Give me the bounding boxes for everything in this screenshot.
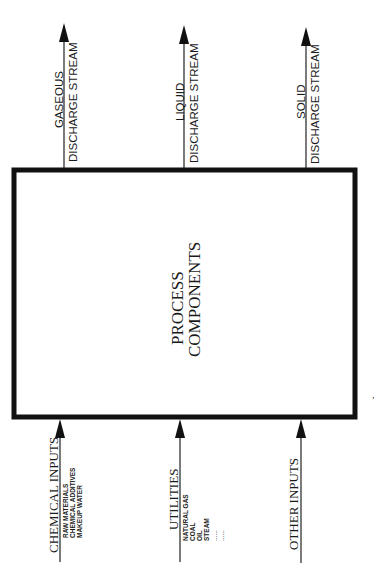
arrowhead-up-icon	[179, 25, 189, 44]
chemical-item: RAW MATERIALS	[62, 483, 69, 538]
output-arrow-gaseous: GASEOUS DISCHARGE STREAM	[53, 23, 79, 168]
process-flow-diagram: GASEOUS DISCHARGE STREAM LIQUID DISCHARG…	[0, 0, 377, 569]
utilities-item: NATURAL GAS	[182, 494, 189, 541]
input-arrow-chemical: CHEMICAL INPUTS RAW MATERIALS CHEMICAL A…	[46, 419, 83, 562]
solid-label-line2: DISCHARGE STREAM	[309, 45, 321, 165]
liquid-label-line2: DISCHARGE STREAM	[188, 44, 200, 164]
chemical-inputs-label: CHEMICAL INPUTS	[46, 437, 61, 553]
output-arrow-liquid: LIQUID DISCHARGE STREAM	[174, 25, 200, 168]
other-inputs-label: OTHER INPUTS	[286, 458, 301, 550]
output-arrow-solid: SOLID DISCHARGE STREAM	[295, 27, 321, 168]
arrowhead-up-icon	[301, 27, 311, 46]
utilities-label: UTILITIES	[166, 469, 181, 530]
chemical-item: CHEMICAL ADDITIVES	[69, 467, 76, 538]
liquid-label-line1: LIQUID	[174, 83, 186, 121]
gaseous-label-line2: DISCHARGE STREAM	[67, 43, 79, 163]
process-box: PROCESS COMPONENTS	[14, 170, 355, 417]
utilities-item: COAL	[189, 523, 196, 541]
utilities-item: STEAM	[203, 518, 210, 541]
arrowhead-up-icon	[296, 419, 306, 438]
utilities-item: OIL	[196, 530, 203, 541]
arrowhead-up-icon	[55, 419, 65, 438]
solid-label-line1: SOLID	[295, 84, 307, 119]
input-arrow-utilities: UTILITIES NATURAL GAS COAL OIL STEAM ...…	[166, 419, 225, 562]
process-label-line2: COMPONENTS	[185, 242, 204, 357]
utilities-item-ellipsis: ......	[211, 530, 218, 541]
input-arrow-other: OTHER INPUTS	[286, 419, 306, 563]
utilities-item-ellipsis: ......	[218, 530, 225, 541]
arrowhead-up-icon	[175, 419, 185, 438]
stray-mark: ,	[372, 390, 375, 400]
gaseous-label-line1: GASEOUS	[53, 71, 65, 128]
chemical-item: MAKEUP WATER	[76, 485, 83, 538]
arrowhead-up-icon	[59, 23, 69, 42]
